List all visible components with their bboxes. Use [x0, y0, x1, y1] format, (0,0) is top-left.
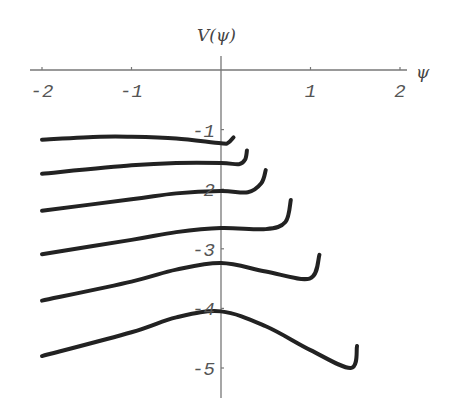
x-tick-label: 1: [305, 81, 316, 103]
chart-canvas: V(ψ) ψ -2-112-12-3-4-5: [0, 0, 450, 418]
potential-curve-curve-3: [42, 170, 266, 211]
x-axis-title: ψ: [416, 62, 430, 82]
x-tick-label: -1: [120, 81, 143, 103]
y-tick-label: -5: [192, 359, 215, 381]
y-tick-label: -1: [192, 121, 215, 143]
x-tick-label: 2: [394, 81, 405, 103]
x-tick-label: -2: [31, 81, 54, 103]
y-axis-title: V(ψ): [197, 25, 236, 45]
y-tick-label: -3: [192, 240, 215, 262]
potential-curve-curve-5: [42, 255, 319, 301]
y-tick-label: 2: [204, 180, 215, 202]
potential-curve-curve-4: [42, 200, 291, 254]
y-tick-label: -4: [192, 299, 215, 321]
potential-curve-curve-2: [42, 150, 247, 173]
